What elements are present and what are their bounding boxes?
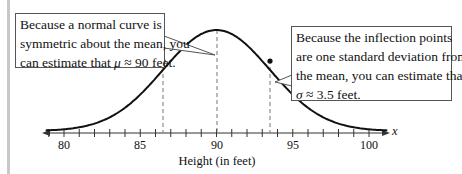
callout-text: symmetric about the mean, you xyxy=(20,34,160,53)
mean-callout: Because a normal curve is symmetric abou… xyxy=(15,13,165,68)
tick-label-95: 95 xyxy=(287,138,299,153)
callout-text-part: ≈ 3.5 feet. xyxy=(303,87,361,102)
callout-text: the mean, you can estimate that xyxy=(296,66,447,85)
tick-label-85: 85 xyxy=(134,138,146,153)
mu-symbol: μ xyxy=(114,55,121,70)
callout-text: are one standard deviation from xyxy=(296,47,447,66)
callout-text: Because a normal curve is xyxy=(20,15,160,34)
x-variable-label: x xyxy=(392,124,398,139)
std-dev-callout: Because the inflection points are one st… xyxy=(291,26,452,101)
callout-text: Because the inflection points xyxy=(296,28,447,47)
tick-label-100: 100 xyxy=(360,138,378,153)
inflection-point-right xyxy=(267,58,272,63)
callout-text-part: ≈ 90 feet. xyxy=(121,55,176,70)
tick-label-90: 90 xyxy=(211,138,223,153)
callout-text-part: can estimate that xyxy=(20,55,114,70)
tick-label-80: 80 xyxy=(58,138,70,153)
sigma-symbol: σ xyxy=(296,87,303,102)
callout-text: can estimate that μ ≈ 90 feet. xyxy=(20,53,160,72)
callout-text: σ ≈ 3.5 feet. xyxy=(296,85,447,104)
right-callout-pointer xyxy=(275,75,292,86)
x-axis-title: Height (in feet) xyxy=(178,154,255,169)
